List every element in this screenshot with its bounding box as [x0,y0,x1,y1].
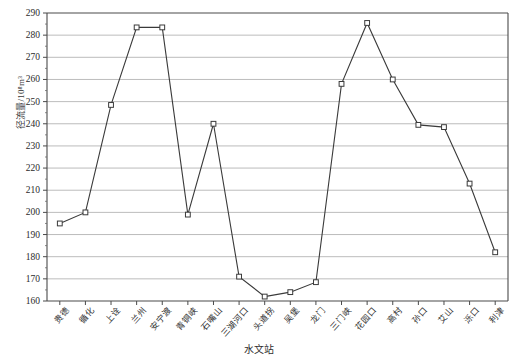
data-point-marker [185,212,190,217]
data-point-marker [288,290,293,295]
data-point-marker [160,25,165,30]
data-point-marker [134,25,139,30]
data-point-marker [493,250,498,255]
data-point-marker [237,274,242,279]
data-point-marker [339,81,344,86]
data-series-line [60,23,495,297]
data-point-marker [365,21,370,26]
data-point-marker [262,294,267,299]
runoff-line-chart: 径流量/10⁸m³ 水文站 29028027026025024023022021… [0,0,518,363]
data-point-marker [442,125,447,130]
plot-area [0,0,518,363]
data-point-marker [416,122,421,127]
data-point-marker [390,77,395,82]
data-point-marker [109,103,114,108]
data-point-marker [467,181,472,186]
data-point-marker [211,121,216,126]
data-point-marker [57,221,62,226]
data-point-marker [314,280,319,285]
data-point-marker [83,210,88,215]
